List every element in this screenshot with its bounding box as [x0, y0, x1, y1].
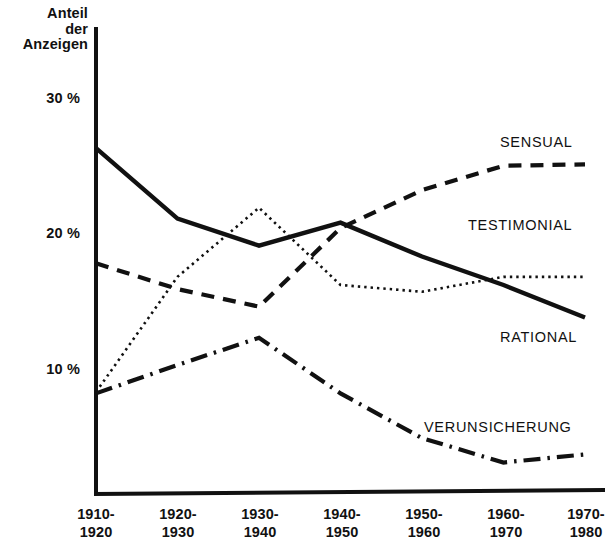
series-line-rational — [96, 148, 585, 317]
chart-figure: Anteil der Anzeigen 30 % 20 % 10 % 1910-… — [0, 0, 609, 550]
series-line-verunsicherung — [96, 338, 585, 463]
plot-area — [0, 0, 609, 550]
x-axis-line — [94, 490, 605, 494]
series-line-testimonial — [96, 208, 585, 392]
